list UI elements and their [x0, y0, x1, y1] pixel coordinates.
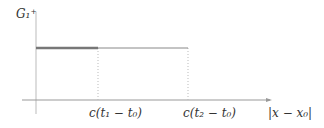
tick-label-t1: c(t₁ − t₀) — [89, 107, 142, 119]
x-axis-arrow-icon — [266, 98, 272, 102]
tick-label-t2: c(t₂ − t₀) — [183, 107, 236, 119]
x-axis-label: |x − x₀| — [268, 107, 312, 119]
y-axis-label: G₁⁺ — [16, 8, 37, 20]
